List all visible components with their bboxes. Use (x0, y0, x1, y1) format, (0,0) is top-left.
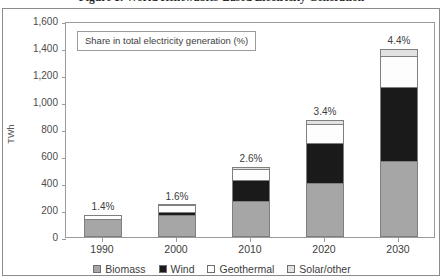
legend-swatch-icon (287, 265, 295, 273)
x-axis-tick-mark (102, 238, 103, 242)
y-axis-tick-mark (62, 77, 66, 78)
bar-segment-biomass[interactable] (158, 215, 196, 237)
bar-segment-biomass[interactable] (306, 183, 344, 237)
bar-percentage-label: 1.4% (92, 201, 115, 212)
legend-item[interactable]: Biomass (93, 263, 145, 275)
legend-item-label: Biomass (105, 263, 145, 275)
y-axis-tick-label: 0 (14, 232, 58, 243)
y-axis-tick-label: 800 (14, 124, 58, 135)
y-axis-tick-label: 1,200 (14, 70, 58, 81)
y-axis-tick-mark (62, 212, 66, 213)
bar-segment-wind[interactable] (306, 143, 344, 184)
y-axis-tick-label: 600 (14, 151, 58, 162)
legend-item-label: Wind (171, 263, 195, 275)
y-axis-tick-label: 400 (14, 178, 58, 189)
figure-title: Figure 1: World Renewables-Based Electri… (0, 0, 443, 4)
x-axis-tick-label: 1990 (90, 243, 113, 255)
bar-segment-wind[interactable] (380, 87, 418, 161)
bar-percentage-label: 4.4% (388, 35, 411, 46)
y-axis-tick-label: 200 (14, 205, 58, 216)
bar-group[interactable]: 1.6% (158, 21, 196, 237)
figure-container: Figure 1: World Renewables-Based Electri… (0, 0, 443, 280)
y-axis-tick-mark (62, 50, 66, 51)
y-axis-tick-label: 1,600 (14, 16, 58, 27)
bar-group[interactable]: 1.4% (84, 21, 122, 237)
bar-segment-geothermal[interactable] (232, 169, 270, 180)
bar-segment-biomass[interactable] (380, 161, 418, 237)
y-axis-tick-mark (62, 185, 66, 186)
bar-stack (306, 120, 344, 237)
bar-stack (232, 167, 270, 237)
bar-percentage-label: 3.4% (314, 106, 337, 117)
bar-group[interactable]: 3.4% (306, 21, 344, 237)
chart-outer-box: TWh Share in total electricity generatio… (2, 8, 440, 276)
x-axis-tick-mark (250, 238, 251, 242)
y-axis-tick-mark (62, 131, 66, 132)
bar-segment-geothermal[interactable] (380, 56, 418, 87)
legend-item-label: Geothermal (219, 263, 274, 275)
bar-segment-wind[interactable] (232, 180, 270, 200)
legend-item[interactable]: Wind (159, 263, 195, 275)
x-axis-tick-label: 2010 (238, 243, 261, 255)
y-axis-tick-mark (62, 104, 66, 105)
legend-item-label: Solar/other (299, 263, 350, 275)
legend-swatch-icon (159, 265, 167, 273)
y-axis-tick-mark (62, 158, 66, 159)
bar-percentage-label: 1.6% (166, 191, 189, 202)
y-axis-tick-label: 1,400 (14, 43, 58, 54)
bar-segment-biomass[interactable] (84, 219, 122, 237)
x-axis-tick-label: 2000 (164, 243, 187, 255)
x-axis-tick-mark (398, 238, 399, 242)
bar-stack (380, 49, 418, 237)
x-axis-tick-mark (324, 238, 325, 242)
x-axis-tick-mark (176, 238, 177, 242)
bar-group[interactable]: 4.4% (380, 21, 418, 237)
legend-swatch-icon (93, 265, 101, 273)
bar-segment-biomass[interactable] (232, 201, 270, 237)
chart-legend: BiomassWindGeothermalSolar/other (3, 263, 441, 275)
x-axis: 19902000201020202030 (65, 238, 435, 260)
x-axis-tick-label: 2030 (386, 243, 409, 255)
y-axis-tick-mark (62, 23, 66, 24)
bar-segment-solar-other[interactable] (380, 49, 418, 56)
bar-stack (158, 204, 196, 237)
legend-item[interactable]: Solar/other (287, 263, 350, 275)
legend-swatch-icon (207, 265, 215, 273)
bar-segment-geothermal[interactable] (158, 205, 196, 212)
y-axis-tick-label: 1,000 (14, 97, 58, 108)
x-axis-tick-label: 2020 (312, 243, 335, 255)
bar-percentage-label: 2.6% (240, 153, 263, 164)
legend-item[interactable]: Geothermal (207, 263, 274, 275)
bar-stack (84, 215, 122, 237)
plot-area: Share in total electricity generation (%… (65, 22, 435, 238)
bar-group[interactable]: 2.6% (232, 21, 270, 237)
bar-segment-geothermal[interactable] (306, 124, 344, 142)
